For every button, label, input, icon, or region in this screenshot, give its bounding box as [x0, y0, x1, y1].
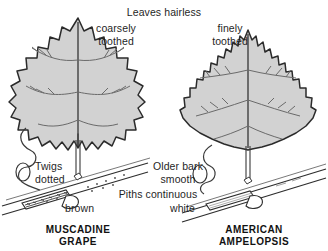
label-left-margin-line1: coarsely [80, 22, 152, 35]
label-pith-brown: brown [65, 202, 94, 215]
ampelopsis-leaf-scar [244, 177, 252, 184]
header-leaves-hairless: Leaves hairless [100, 6, 228, 19]
species-name-right-line2: AMPELOPSIS [192, 236, 316, 248]
label-older-bark-line1: Older bark [140, 160, 216, 173]
label-piths-continuous: Piths continuous [88, 188, 228, 201]
label-right-margin-line2: toothed [196, 35, 264, 48]
species-name-left-line1: MUSCADINE [18, 224, 138, 236]
label-older-bark-line2: smooth [140, 173, 216, 186]
muscadine-tendril-loop [16, 163, 30, 181]
label-twigs-line2: dotted [35, 173, 65, 186]
ampelopsis-smooth-bark [276, 178, 301, 186]
ampelopsis-petiole [246, 146, 250, 180]
illustration-canvas [0, 0, 328, 251]
label-twigs-line1: Twigs [35, 160, 62, 173]
species-name-right-line1: AMERICAN [192, 224, 316, 236]
species-name-left: MUSCADINE GRAPE [18, 224, 138, 248]
botanical-comparison-plate: Leaves hairless coarsely toothed finely … [0, 0, 328, 251]
label-pith-white: white [170, 202, 195, 215]
label-left-margin-line2: toothed [80, 35, 152, 48]
muscadine-grape-illustration [2, 18, 150, 215]
species-name-right: AMERICAN AMPELOPSIS [192, 224, 316, 248]
label-right-margin-line1: finely [196, 22, 264, 35]
muscadine-leaf-scar [74, 173, 82, 180]
species-name-left-line2: GRAPE [18, 236, 138, 248]
